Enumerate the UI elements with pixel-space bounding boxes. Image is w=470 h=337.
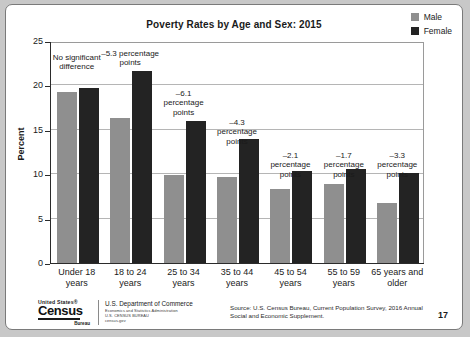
y-axis-tick	[45, 131, 50, 132]
legend-item: Male	[411, 12, 452, 22]
chart-legend: MaleFemale	[411, 12, 452, 40]
y-axis-tick-label: 0	[13, 258, 43, 268]
y-axis-tick	[45, 264, 50, 265]
bar-male	[57, 92, 77, 263]
page-number: 17	[438, 310, 448, 320]
bar-female	[292, 171, 312, 263]
bar-male	[110, 118, 130, 263]
bar-annotation: –5.3 percentage points	[95, 49, 165, 68]
legend-label: Male	[424, 12, 442, 22]
legend-label: Female	[424, 26, 452, 36]
y-axis-tick-label: 5	[13, 214, 43, 224]
bar-annotation: –3.3 percentage points	[362, 151, 432, 179]
logo-department-block: U.S. Department of Commerce Economics an…	[105, 299, 193, 323]
chart-title: Poverty Rates by Age and Sex: 2015	[6, 19, 462, 30]
logo-census-wordmark: Census	[38, 304, 96, 317]
gridline	[51, 84, 423, 85]
x-axis-label: 65 years and older	[363, 267, 431, 289]
y-axis-tick	[45, 220, 50, 221]
y-axis-tick-label: 25	[13, 36, 43, 46]
bar-male	[217, 177, 237, 263]
y-axis-title: Percent	[16, 114, 26, 174]
y-axis-line	[50, 42, 51, 264]
gridline	[51, 218, 423, 219]
bar-annotation: –6.1 percentage points	[149, 89, 219, 117]
x-axis-line	[50, 263, 424, 264]
legend-swatch	[411, 13, 419, 21]
bar-male	[324, 184, 344, 263]
logo-mark: United States® Census Bureau	[38, 299, 96, 326]
source-note: Source: U.S. Census Bureau, Current Popu…	[230, 304, 440, 321]
bar-female	[399, 173, 419, 263]
logo-dept-line-4: census.gov	[105, 318, 193, 323]
bar-male	[270, 189, 290, 263]
y-axis-tick-label: 20	[13, 80, 43, 90]
census-bureau-logo: United States® Census Bureau U.S. Depart…	[38, 299, 193, 326]
legend-item: Female	[411, 26, 452, 36]
y-axis-tick	[45, 42, 50, 43]
bar-male	[164, 175, 184, 263]
y-axis-tick	[45, 175, 50, 176]
logo-bureau: Bureau	[38, 321, 90, 326]
bar-female	[346, 169, 366, 263]
bar-male	[377, 203, 397, 263]
slide-canvas: Poverty Rates by Age and Sex: 2015 05101…	[5, 4, 463, 330]
logo-divider	[98, 300, 99, 325]
legend-swatch	[411, 27, 419, 35]
bar-annotation: –4.3 percentage points	[202, 118, 272, 146]
y-axis-tick	[45, 86, 50, 87]
logo-dept-line-1: U.S. Department of Commerce	[105, 300, 193, 308]
bar-female	[79, 88, 99, 263]
